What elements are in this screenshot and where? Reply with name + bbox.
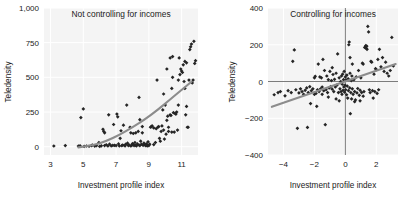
y-axis-ticks-right: −400−2000200400 bbox=[245, 4, 264, 160]
y-tick-label: 400 bbox=[250, 4, 264, 13]
plot-area-left bbox=[44, 8, 198, 155]
x-axis-ticks-left: 357911 bbox=[48, 160, 186, 169]
y-axis-ticks-left: 02505007501,000 bbox=[19, 4, 40, 152]
y-axis-label-right: Teledensity bbox=[228, 61, 237, 103]
x-tick-label: 3 bbox=[48, 160, 53, 169]
plot-area-right bbox=[268, 8, 398, 155]
y-tick-label: −200 bbox=[245, 114, 264, 123]
y-tick-label: −400 bbox=[245, 151, 264, 160]
y-axis-label-left: Teledensity bbox=[4, 61, 13, 103]
x-tick-label: 2 bbox=[374, 160, 379, 169]
x-tick-label: 11 bbox=[177, 160, 186, 169]
y-tick-label: 750 bbox=[26, 39, 40, 48]
x-tick-label: 9 bbox=[147, 160, 152, 169]
chart-svg-left: 357911 02505007501,000 Not controlling f… bbox=[0, 0, 203, 197]
chart-panel-right: −4−202 −400−2000200400 Controlling for i… bbox=[203, 0, 405, 197]
y-tick-label: 500 bbox=[26, 73, 40, 82]
x-tick-label: 5 bbox=[81, 160, 86, 169]
figure-container: 357911 02505007501,000 Not controlling f… bbox=[0, 0, 405, 197]
y-tick-label: 250 bbox=[26, 108, 40, 117]
y-tick-label: 0 bbox=[259, 78, 264, 87]
y-tick-label: 0 bbox=[35, 143, 40, 152]
x-axis-label-left: Investment profile index bbox=[78, 181, 164, 190]
x-axis-ticks-right: −4−202 bbox=[279, 160, 379, 169]
x-axis-label-right: Investment profile index bbox=[290, 181, 376, 190]
chart-svg-right: −4−202 −400−2000200400 Controlling for i… bbox=[203, 0, 405, 197]
panel-title-left: Not controlling for incomes bbox=[71, 9, 170, 19]
y-tick-label: 200 bbox=[250, 41, 264, 50]
y-tick-label: 1,000 bbox=[19, 4, 40, 13]
x-tick-label: −4 bbox=[279, 160, 289, 169]
chart-panel-left: 357911 02505007501,000 Not controlling f… bbox=[0, 0, 203, 197]
x-tick-label: 0 bbox=[343, 160, 348, 169]
panel-title-right: Controlling for incomes bbox=[290, 9, 376, 19]
x-tick-label: 7 bbox=[114, 160, 119, 169]
x-tick-label: −2 bbox=[310, 160, 320, 169]
